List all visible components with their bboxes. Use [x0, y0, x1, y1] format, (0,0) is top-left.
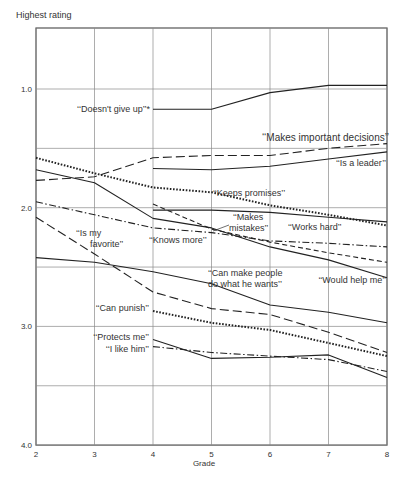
x-tick-label: 5	[209, 450, 214, 459]
series-label: ‘‘I like him’’	[106, 344, 149, 354]
series-label-line2: do what he wants’’	[208, 279, 282, 289]
series-label: ‘‘Is a leader’’	[336, 158, 386, 168]
y-tick-label: 2.0	[21, 204, 33, 213]
series-label: ‘‘Makes	[233, 212, 264, 222]
series-label: ‘‘Can punish’’	[96, 303, 149, 313]
series-label: ‘‘Protects me’’	[93, 332, 149, 342]
label-leader-line	[213, 225, 229, 231]
series-label-line2: favorite’’	[90, 239, 123, 249]
x-axis-title: Grade	[0, 459, 405, 468]
series-label: ‘‘Knows more’’	[149, 235, 207, 245]
x-tick-label: 8	[385, 450, 390, 459]
series-label: ‘‘Is my	[76, 228, 102, 238]
x-tick-label: 7	[326, 450, 331, 459]
y-tick-label: 4.0	[21, 441, 33, 450]
series-label: ‘‘Would help me’’	[318, 275, 386, 285]
series-label: ‘‘Doesn't give up’’*	[77, 104, 150, 114]
y-tick-label: 3.0	[21, 322, 33, 331]
series-label: ‘‘Keeps promises’’	[213, 188, 285, 198]
series-label-line2: mistakes’’	[229, 223, 268, 233]
x-tick-label: 2	[34, 450, 39, 459]
series-label: ‘‘Makes important decisions’’	[262, 132, 389, 143]
x-tick-label: 6	[268, 450, 273, 459]
y-tick-label: 1.0	[21, 85, 33, 94]
x-tick-label: 3	[92, 450, 97, 459]
x-tick-label: 4	[151, 450, 156, 459]
series-label: ‘‘Works hard’’	[288, 222, 342, 232]
line-chart: 1.02.03.04.02345678 ‘‘Doesn't give up’’*…	[0, 0, 405, 487]
series-label: ‘‘Can make people	[208, 268, 282, 278]
series-labels: ‘‘Doesn't give up’’*‘‘Makes important de…	[76, 104, 389, 354]
